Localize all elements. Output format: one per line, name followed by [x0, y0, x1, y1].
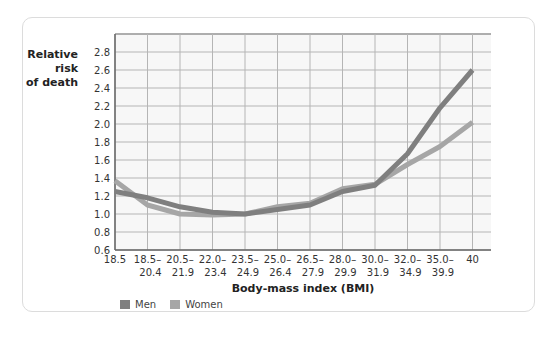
x-tick-label: 35.0–: [426, 254, 453, 265]
x-tick-label: 18.5–: [134, 254, 161, 265]
y-tick-label: 1.2: [94, 191, 110, 202]
y-tick-label: 1.8: [94, 137, 110, 148]
y-tick-label: 2.0: [94, 119, 110, 130]
y-tick-label: 2.4: [94, 83, 110, 94]
x-tick-label: 28.0–: [329, 254, 356, 265]
x-tick-label: 23.5–: [231, 254, 258, 265]
x-tick-label: 24.9: [237, 267, 259, 278]
x-tick-label: 26.4: [269, 267, 291, 278]
legend: Men Women: [120, 299, 223, 310]
x-tick-label: 26.5–: [296, 254, 323, 265]
x-tick-label: 20.5–: [166, 254, 193, 265]
y-tick-label: 2.2: [94, 101, 110, 112]
x-tick-label: 27.9: [302, 267, 324, 278]
legend-item-women: Women: [170, 299, 223, 310]
x-tick-label: 18.5: [104, 254, 126, 265]
x-tick-label: 23.4: [204, 267, 226, 278]
legend-item-men: Men: [120, 299, 156, 310]
legend-label-women: Women: [185, 299, 223, 310]
x-tick-label: 29.9: [334, 267, 356, 278]
x-tick-label: 34.9: [399, 267, 421, 278]
y-tick-label: 1.4: [94, 173, 110, 184]
x-tick-label: 31.9: [367, 267, 389, 278]
x-tick-label: 32.0–: [394, 254, 421, 265]
x-tick-label: 40: [466, 254, 479, 265]
x-axis-label: Body-mass index (BMI): [115, 282, 491, 295]
y-tick-label: 2.6: [94, 65, 110, 76]
y-tick-label: 0.8: [94, 227, 110, 238]
x-tick-label: 39.9: [432, 267, 454, 278]
x-tick-label: 22.0–: [199, 254, 226, 265]
legend-label-men: Men: [135, 299, 156, 310]
x-tick-label: 21.9: [172, 267, 194, 278]
x-tick-label: 30.0–: [361, 254, 388, 265]
x-tick-label: 25.0–: [264, 254, 291, 265]
legend-swatch-men: [120, 300, 130, 309]
y-tick-label: 1.6: [94, 155, 110, 166]
y-tick-label: 2.8: [94, 47, 110, 58]
legend-swatch-women: [170, 300, 180, 309]
x-tick-label: 20.4: [139, 267, 161, 278]
y-tick-label: 1.0: [94, 209, 110, 220]
